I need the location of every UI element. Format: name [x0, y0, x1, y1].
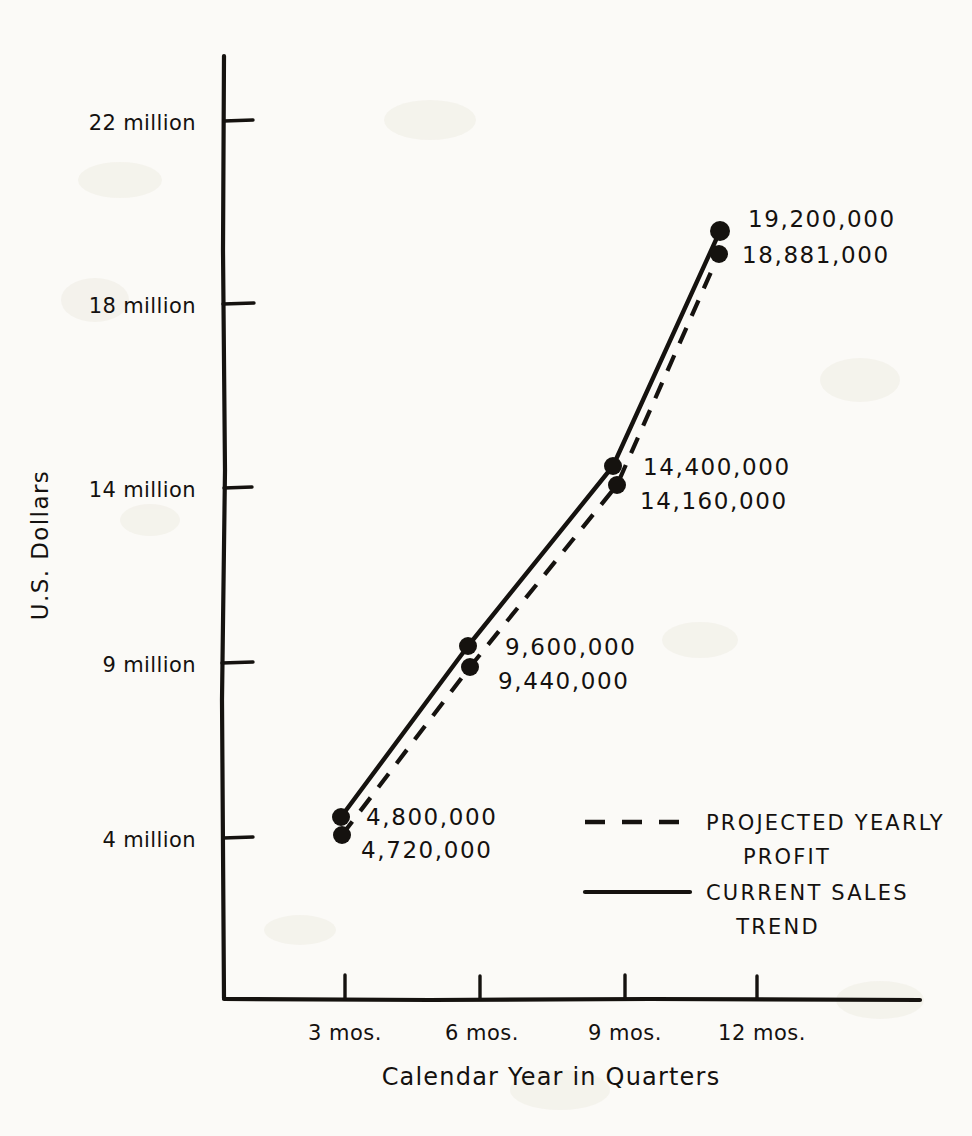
y-tick-18m — [223, 303, 254, 304]
data-point-q2-dashed — [461, 658, 479, 676]
y-tick-9m — [222, 662, 253, 663]
point-label-q2-dashed: 9,440,000 — [498, 668, 629, 694]
point-label-q4-solid: 19,200,000 — [748, 206, 896, 232]
point-label-q2-solid: 9,600,000 — [505, 634, 636, 660]
series-line-projected-yearly-profit — [342, 254, 719, 835]
y-tick-22m — [224, 120, 253, 121]
data-point-q3-dashed — [608, 476, 626, 494]
point-label-q4-dashed: 18,881,000 — [742, 242, 890, 268]
legend-label-projected-yearly-profit-line1: PROJECTED YEARLY — [706, 811, 945, 835]
legend-label-current-sales-trend-line1: CURRENT SALES — [706, 881, 909, 905]
y-tick-4m — [223, 837, 253, 838]
point-label-q1-solid: 4,800,000 — [366, 804, 497, 830]
data-point-q3-solid — [604, 457, 622, 475]
y-axis-title: U.S. Dollars — [27, 470, 53, 620]
data-point-q1-dashed — [333, 826, 351, 844]
series-markers-projected-yearly-profit — [333, 245, 728, 844]
y-tick-label-22m: 22 million — [89, 111, 196, 135]
hand-drawn-chart: 22 million 18 million 14 million 9 milli… — [0, 0, 972, 1136]
x-axis-line — [224, 999, 920, 1000]
data-point-q2-solid — [459, 637, 477, 655]
x-axis-title: Calendar Year in Quarters — [382, 1063, 721, 1091]
y-tick-label-18m: 18 million — [89, 294, 196, 318]
series-markers-current-sales-trend — [332, 221, 730, 826]
point-label-q1-dashed: 4,720,000 — [361, 837, 492, 863]
y-tick-label-9m: 9 million — [102, 653, 196, 677]
point-label-q3-solid: 14,400,000 — [643, 454, 791, 480]
data-point-q1-solid — [332, 808, 350, 826]
y-tick-14m — [224, 487, 252, 488]
x-tick-label-9mos: 9 mos. — [588, 1021, 662, 1045]
legend-label-current-sales-trend-line2: TREND — [735, 915, 820, 939]
x-tick-label-6mos: 6 mos. — [445, 1021, 519, 1045]
x-axis-ticks — [345, 975, 757, 999]
chart-legend: PROJECTED YEARLY PROFIT CURRENT SALES TR… — [585, 811, 945, 939]
y-axis-line — [222, 56, 225, 998]
x-tick-label-12mos: 12 mos. — [718, 1021, 806, 1045]
y-tick-label-14m: 14 million — [89, 478, 196, 502]
legend-label-projected-yearly-profit-line2: PROFIT — [743, 845, 831, 869]
y-tick-label-4m: 4 million — [102, 828, 196, 852]
series-line-current-sales-trend — [341, 231, 720, 817]
data-point-q4-dashed — [710, 245, 728, 263]
chart-page: 22 million 18 million 14 million 9 milli… — [0, 0, 972, 1136]
point-label-q3-dashed: 14,160,000 — [640, 488, 788, 514]
data-point-q4-solid — [710, 221, 730, 241]
x-tick-label-3mos: 3 mos. — [308, 1021, 382, 1045]
